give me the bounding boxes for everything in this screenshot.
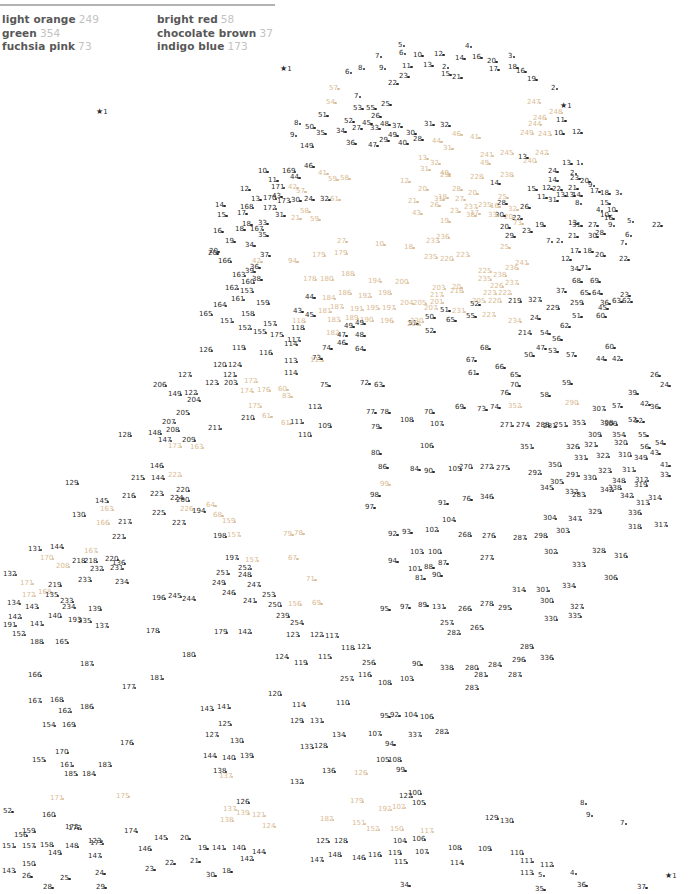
puzzle-dot-marker [580, 203, 582, 205]
puzzle-dot-number: 5 [627, 218, 631, 225]
puzzle-dot-number: 5 [398, 42, 402, 49]
puzzle-dot-number: 2 [556, 238, 560, 245]
puzzle-dot-number: 7 [354, 93, 358, 100]
puzzle-dot-marker [556, 88, 558, 90]
puzzle-dot-marker [561, 241, 563, 243]
puzzle-dot-marker [613, 225, 615, 227]
puzzle-dot-marker [551, 241, 553, 243]
puzzle-dot-number: 9 [608, 222, 612, 229]
puzzle-dot-number: 6 [625, 232, 629, 239]
puzzle-start-star: ★1 [280, 65, 292, 73]
puzzle-dot-marker [513, 56, 515, 58]
puzzle-dot-number: 7 [546, 238, 550, 245]
puzzle-dot-number: 3 [508, 53, 512, 60]
puzzle-start-star-label: 1 [567, 102, 571, 110]
puzzle-dot-marker [380, 56, 382, 58]
puzzle-dot-marker [384, 68, 386, 70]
dot-to-dot-canvas: 5476101214162036891113215171816192321222… [0, 0, 689, 894]
puzzle-dot-marker [470, 46, 472, 48]
puzzle-dot-marker [299, 123, 301, 125]
puzzle-dot-number: 8 [580, 800, 584, 807]
puzzle-dot-number: 2 [551, 85, 555, 92]
puzzle-dot-number: 3 [615, 190, 619, 197]
puzzle-dot-marker [359, 96, 361, 98]
puzzle-start-star-label: 1 [287, 65, 291, 73]
puzzle-dot-number: 7 [375, 53, 379, 60]
puzzle-dot-number: 7 [620, 820, 624, 827]
puzzle-dot-number: 8 [294, 120, 298, 127]
puzzle-dot-marker [625, 823, 627, 825]
puzzle-start-star: ★1 [665, 872, 677, 880]
puzzle-dot-marker [581, 163, 583, 165]
puzzle-dot-marker [591, 815, 593, 817]
puzzle-dot-marker [363, 68, 365, 70]
puzzle-dot-marker [350, 72, 352, 74]
puzzle-dot-number: 5 [538, 872, 542, 879]
puzzle-dot-number: 4 [465, 43, 469, 50]
puzzle-start-star: ★1 [96, 108, 108, 116]
puzzle-dot-number: 8 [575, 200, 579, 207]
puzzle-dot-marker [620, 193, 622, 195]
puzzle-dot-marker [585, 803, 587, 805]
puzzle-dot-number: 7 [620, 240, 624, 247]
puzzle-start-star-label: 1 [672, 872, 676, 880]
puzzle-dot-number: 6 [345, 69, 349, 76]
puzzle-dot-marker [625, 243, 627, 245]
puzzle-dot-number: 4 [570, 870, 574, 877]
puzzle-dot-marker [630, 235, 632, 237]
puzzle-dot-marker [543, 875, 545, 877]
puzzle-dot-number: 9 [379, 65, 383, 72]
puzzle-start-star-label: 1 [103, 108, 107, 116]
puzzle-dot-marker [575, 873, 577, 875]
puzzle-dot-marker [632, 221, 634, 223]
puzzle-dot-number: 9 [290, 132, 294, 139]
puzzle-dot-marker [403, 45, 405, 47]
puzzle-dot-marker [295, 135, 297, 137]
puzzle-dot-number: 9 [586, 812, 590, 819]
puzzle-start-star: ★1 [560, 102, 572, 110]
puzzle-dot-marker [404, 53, 406, 55]
puzzle-dot-number: 1 [576, 160, 580, 167]
puzzle-dot-number: 6 [399, 50, 403, 57]
puzzle-dot-number: 8 [358, 65, 362, 72]
